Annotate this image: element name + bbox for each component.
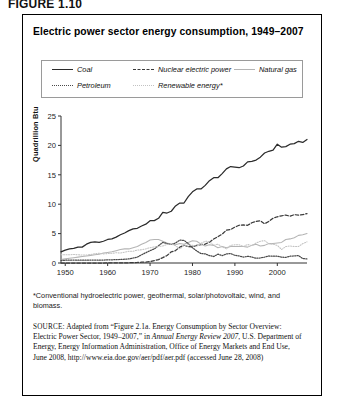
- svg-text:2000: 2000: [269, 268, 286, 277]
- source-italic-title: Annual Energy Review 2007: [152, 332, 238, 341]
- svg-text:1970: 1970: [142, 268, 159, 277]
- svg-text:0: 0: [52, 259, 56, 268]
- plot-area: Quadrillion Btu 051015202519501960197019…: [33, 110, 313, 285]
- figure-container: FIGURE 1.10 Electric power sector energy…: [0, 0, 346, 409]
- legend-swatch-solid-gray-icon: [234, 66, 255, 73]
- legend-label-natural-gas: Natural gas: [259, 65, 297, 74]
- legend-item-coal: Coal: [52, 65, 92, 74]
- legend-item-petroleum: Petroleum: [52, 81, 111, 90]
- source-citation: SOURCE: Adapted from “Figure 2.1a. Energ…: [33, 322, 305, 363]
- series-line-coal: [61, 140, 307, 252]
- svg-text:25: 25: [48, 112, 56, 121]
- legend-swatch-dotted-icon: [52, 82, 73, 89]
- legend-item-natural-gas: Natural gas: [234, 65, 297, 74]
- legend-swatch-dashed-icon: [133, 66, 154, 73]
- svg-text:1950: 1950: [57, 268, 74, 277]
- legend-label-nuclear-electric-power: Nuclear electric power: [158, 65, 231, 74]
- svg-text:10: 10: [48, 200, 56, 209]
- chart-svg: 0510152025195019601970198019902000: [33, 110, 313, 285]
- svg-text:20: 20: [48, 141, 56, 150]
- chart-footnote: *Conventional hydroelectric power, geoth…: [33, 291, 305, 310]
- legend-label-petroleum: Petroleum: [77, 81, 111, 90]
- figure-label: FIGURE 1.10: [8, 0, 82, 8]
- chart-title: Electric power sector energy consumption…: [33, 26, 311, 37]
- svg-text:5: 5: [52, 229, 56, 238]
- svg-text:1990: 1990: [226, 268, 243, 277]
- legend-swatch-dotted-gray-icon: [133, 82, 154, 89]
- svg-text:15: 15: [48, 171, 56, 180]
- svg-text:1980: 1980: [184, 268, 201, 277]
- legend-swatch-solid-icon: [52, 66, 73, 73]
- source-prefix: SOURCE: [33, 323, 63, 331]
- legend-label-renewable-energy: Renewable energy*: [158, 81, 223, 90]
- legend-label-coal: Coal: [77, 65, 92, 74]
- legend-item-nuclear-electric-power: Nuclear electric power: [133, 65, 231, 74]
- legend-item-renewable-energy: Renewable energy*: [133, 81, 223, 90]
- chart-legend: Coal Nuclear electric power Natural gas …: [41, 60, 303, 98]
- svg-text:1960: 1960: [99, 268, 116, 277]
